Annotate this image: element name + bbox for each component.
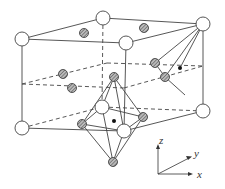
axis-triad [156, 144, 193, 176]
axis-label-z: z [158, 134, 164, 146]
open-atom [15, 121, 29, 135]
axis-label-x: x [196, 168, 202, 180]
hatched-atoms [59, 24, 170, 167]
black-dot-atom [178, 66, 182, 70]
black-dot-atom [112, 119, 116, 123]
hatched-atom [151, 59, 160, 68]
hatched-atom [59, 70, 68, 79]
hatched-atom [80, 29, 89, 38]
hatched-atom [78, 120, 87, 129]
hatched-atom [161, 73, 170, 82]
hatched-atom [68, 84, 77, 93]
open-atom [196, 104, 210, 118]
hatched-atom [140, 24, 149, 33]
open-atom [117, 124, 131, 138]
open-atom [15, 32, 29, 46]
open-atom [196, 17, 210, 31]
open-atom [95, 100, 109, 114]
cell-edges [22, 18, 203, 162]
open-atom [119, 36, 133, 50]
open-atom [96, 11, 110, 25]
hatched-atom [109, 158, 118, 167]
crystal-structure-diagram: z y x [0, 0, 225, 189]
hatched-atom [110, 73, 119, 82]
axis-label-y: y [193, 147, 199, 159]
hatched-atom [139, 113, 148, 122]
unit-cell-svg: z y x [0, 0, 225, 189]
